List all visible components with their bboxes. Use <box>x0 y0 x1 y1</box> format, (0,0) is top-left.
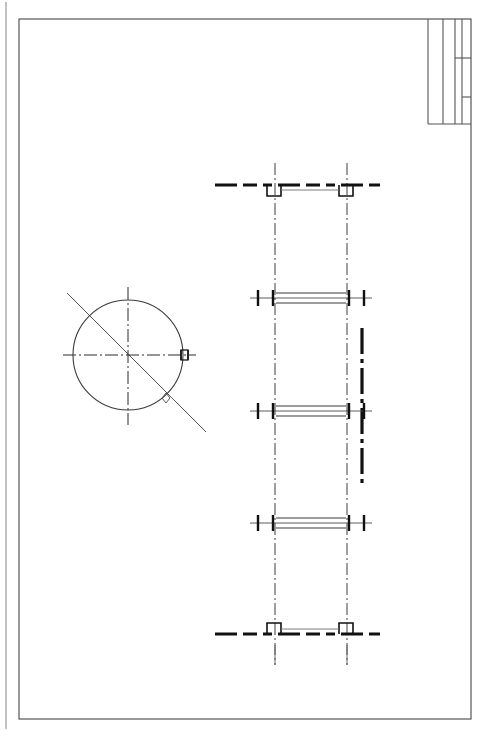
circular-end-view <box>63 287 206 432</box>
shaft-section-2 <box>250 403 372 419</box>
title-block <box>428 19 471 124</box>
circle-diagonal-line <box>67 293 206 432</box>
flange-top-bracket-left <box>267 185 281 196</box>
flange-top <box>215 185 380 196</box>
flange-top-bracket-right <box>339 185 353 196</box>
drawing-sheet: · · · · <box>0 0 481 731</box>
drawing-frame <box>19 19 471 719</box>
flange-bottom <box>215 623 380 634</box>
flange-bottom-bracket-right <box>339 623 353 634</box>
longitudinal-section-view <box>215 163 380 665</box>
flange-bottom-bracket-left <box>267 623 281 634</box>
drawing-canvas <box>0 0 481 731</box>
shaft-section-3 <box>250 515 372 531</box>
shaft-section-1 <box>250 290 372 306</box>
